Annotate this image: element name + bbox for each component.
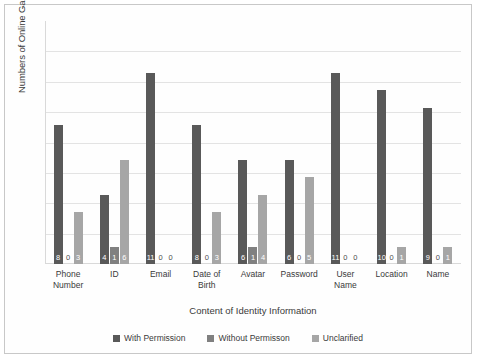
bar-group: 1100 (137, 21, 183, 264)
bar-value-label: 0 (168, 254, 172, 262)
bar: 3 (74, 212, 83, 264)
x-tick-label: Avatar (230, 267, 276, 301)
chart-legend: With PermissionWithout PermissonUnclarif… (5, 333, 471, 343)
x-tick-label: Name (415, 267, 461, 301)
x-tick-label-line: Phone (45, 269, 91, 280)
bar-value-label: 0 (390, 254, 394, 262)
x-tick-label: Email (137, 267, 183, 301)
bar-value-label: 0 (353, 254, 357, 262)
bar-group: 605 (276, 21, 322, 264)
y-axis-title-text: Numbers of Online Game Platforms (16, 0, 27, 93)
y-axis-title: Numbers of Online Game Platforms (16, 0, 30, 93)
x-tick-label-line: Name (415, 269, 461, 280)
bar-value-label: 6 (287, 254, 291, 262)
bar-value-label: 6 (122, 254, 126, 262)
x-tick-label-line: Number (45, 280, 91, 291)
x-tick-label: PhoneNumber (45, 267, 91, 301)
legend-label: With Permission (124, 333, 185, 343)
bar-group: 1100 (322, 21, 368, 264)
bar: 5 (305, 177, 314, 264)
bar: 1 (397, 247, 406, 264)
bar-value-label: 11 (332, 254, 340, 262)
bar-value-label: 3 (76, 254, 80, 262)
bar-value-label: 1 (251, 254, 255, 262)
bar: 6 (120, 160, 129, 264)
bar-value-label: 9 (426, 254, 430, 262)
bar-group: 901 (415, 21, 461, 264)
legend-item[interactable]: With Permission (113, 333, 185, 343)
bar: 10 (377, 90, 386, 264)
x-axis-title: Content of Identity Information (45, 305, 461, 316)
bar: 1 (248, 247, 257, 264)
bar-value-label: 0 (436, 254, 440, 262)
x-tick-label-line: Location (369, 269, 415, 280)
legend-label: Unclarified (323, 333, 363, 343)
bar-value-label: 11 (147, 254, 155, 262)
bar-value-label: 5 (307, 254, 311, 262)
legend-label: Without Permisson (218, 333, 289, 343)
bar: 4 (100, 195, 109, 264)
bar: 8 (54, 125, 63, 264)
bar-value-label: 0 (158, 254, 162, 262)
bar-value-label: 8 (195, 254, 199, 262)
bar: 4 (258, 195, 267, 264)
x-tick-label-line: Avatar (230, 269, 276, 280)
legend-item[interactable]: Unclarified (312, 333, 363, 343)
bar: 11 (331, 73, 340, 264)
bar-group: 1001 (369, 21, 415, 264)
bar-group: 803 (45, 21, 91, 264)
bar-value-label: 1 (112, 254, 116, 262)
bar-value-label: 3 (215, 254, 219, 262)
x-tick-label-line: User (322, 269, 368, 280)
bar: 6 (285, 160, 294, 264)
bar-value-label: 8 (56, 254, 60, 262)
bar-group: 614 (230, 21, 276, 264)
x-tick-label-line: Email (137, 269, 183, 280)
bar: 6 (238, 160, 247, 264)
bar-value-label: 10 (377, 254, 385, 262)
bar-value-label: 4 (261, 254, 265, 262)
bar: 8 (192, 125, 201, 264)
bar-value-label: 1 (400, 254, 404, 262)
x-tick-label-line: Name (322, 280, 368, 291)
bar: 9 (423, 108, 432, 264)
bar: 11 (146, 73, 155, 264)
legend-item[interactable]: Without Permisson (207, 333, 289, 343)
bar-value-label: 0 (205, 254, 209, 262)
bar-value-label: 6 (241, 254, 245, 262)
x-axis-tick-labels: PhoneNumberIDEmailDate ofBirthAvatarPass… (45, 267, 461, 301)
bar-value-label: 0 (343, 254, 347, 262)
bar-group: 416 (91, 21, 137, 264)
legend-swatch-icon (312, 335, 319, 342)
x-tick-label-line: Date of (184, 269, 230, 280)
bar: 1 (443, 247, 452, 264)
x-tick-label: Location (369, 267, 415, 301)
legend-swatch-icon (113, 335, 120, 342)
bar: 1 (110, 247, 119, 264)
x-tick-label: UserName (322, 267, 368, 301)
bar-value-label: 0 (297, 254, 301, 262)
x-tick-label: ID (91, 267, 137, 301)
x-tick-label: Password (276, 267, 322, 301)
chart-container: Numbers of Online Game Platforms 8034161… (4, 4, 472, 354)
x-tick-label: Date ofBirth (184, 267, 230, 301)
bar-value-label: 1 (446, 254, 450, 262)
bar-group: 803 (184, 21, 230, 264)
bar-value-label: 4 (102, 254, 106, 262)
legend-swatch-icon (207, 335, 214, 342)
x-tick-label-line: Birth (184, 280, 230, 291)
bar: 3 (212, 212, 221, 264)
x-tick-label-line: ID (91, 269, 137, 280)
x-tick-label-line: Password (276, 269, 322, 280)
plot-area: 803416110080361460511001001901 (45, 21, 461, 264)
bar-groups: 803416110080361460511001001901 (45, 21, 461, 264)
bar-value-label: 0 (66, 254, 70, 262)
